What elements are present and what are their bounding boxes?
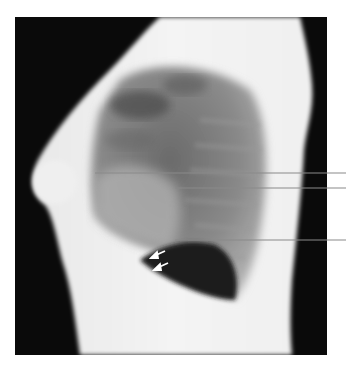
breast-tissue <box>33 160 77 204</box>
radiograph-figure <box>0 0 346 374</box>
radiograph-svg <box>0 0 346 374</box>
